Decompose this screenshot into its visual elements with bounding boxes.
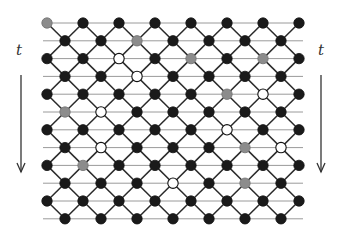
black-node	[168, 142, 178, 152]
black-node	[186, 160, 196, 170]
white-node	[276, 142, 286, 152]
black-node	[78, 125, 88, 135]
black-node	[114, 125, 124, 135]
black-node	[276, 36, 286, 46]
time-label-right: t	[318, 41, 324, 59]
black-node	[168, 36, 178, 46]
horizontal-time-lines	[43, 23, 303, 219]
gray-node	[240, 142, 250, 152]
black-node	[276, 214, 286, 224]
black-node	[114, 160, 124, 170]
black-node	[204, 36, 214, 46]
time-arrows	[17, 75, 325, 172]
black-node	[132, 142, 142, 152]
black-node	[96, 214, 106, 224]
gray-node	[240, 178, 250, 188]
black-node	[150, 18, 160, 28]
black-node	[96, 36, 106, 46]
black-node	[240, 36, 250, 46]
gray-node	[78, 160, 88, 170]
black-node	[258, 196, 268, 206]
black-node	[114, 18, 124, 28]
black-node	[42, 53, 52, 63]
black-node	[114, 89, 124, 99]
black-node	[222, 160, 232, 170]
black-node	[150, 89, 160, 99]
black-node	[42, 125, 52, 135]
black-node	[204, 178, 214, 188]
black-node	[168, 107, 178, 117]
black-node	[78, 89, 88, 99]
lattice-nodes	[42, 18, 304, 224]
black-node	[204, 214, 214, 224]
black-node	[78, 53, 88, 63]
black-node	[294, 89, 304, 99]
black-node	[78, 196, 88, 206]
black-node	[222, 196, 232, 206]
black-node	[60, 71, 70, 81]
gray-node	[222, 89, 232, 99]
black-node	[42, 196, 52, 206]
black-node	[258, 125, 268, 135]
black-node	[60, 214, 70, 224]
black-node	[186, 196, 196, 206]
black-node	[150, 125, 160, 135]
black-node	[168, 214, 178, 224]
gray-node	[42, 18, 52, 28]
black-node	[96, 71, 106, 81]
black-node	[204, 71, 214, 81]
gray-node	[258, 53, 268, 63]
black-node	[60, 178, 70, 188]
black-node	[42, 160, 52, 170]
black-node	[204, 107, 214, 117]
white-node	[168, 178, 178, 188]
black-node	[294, 18, 304, 28]
black-node	[132, 107, 142, 117]
time-label-left: t	[16, 41, 22, 59]
white-node	[96, 142, 106, 152]
white-node	[96, 107, 106, 117]
black-node	[114, 196, 124, 206]
black-node	[276, 107, 286, 117]
white-node	[132, 71, 142, 81]
black-node	[240, 107, 250, 117]
black-node	[294, 160, 304, 170]
black-node	[276, 178, 286, 188]
black-node	[186, 89, 196, 99]
black-node	[240, 71, 250, 81]
black-node	[150, 53, 160, 63]
black-node	[294, 53, 304, 63]
black-node	[258, 18, 268, 28]
black-node	[60, 36, 70, 46]
gray-node	[186, 53, 196, 63]
black-node	[132, 214, 142, 224]
black-node	[132, 178, 142, 188]
black-node	[276, 71, 286, 81]
black-node	[240, 214, 250, 224]
black-node	[294, 125, 304, 135]
lattice-edges	[47, 23, 299, 219]
black-node	[222, 18, 232, 28]
black-node	[96, 178, 106, 188]
black-node	[150, 160, 160, 170]
black-node	[186, 125, 196, 135]
black-node	[204, 142, 214, 152]
black-node	[150, 196, 160, 206]
black-node	[168, 71, 178, 81]
black-node	[42, 89, 52, 99]
black-node	[258, 160, 268, 170]
white-node	[222, 125, 232, 135]
black-node	[294, 196, 304, 206]
black-node	[186, 18, 196, 28]
white-node	[114, 53, 124, 63]
gray-node	[132, 36, 142, 46]
white-node	[258, 89, 268, 99]
black-node	[78, 18, 88, 28]
lattice-diagram	[0, 0, 345, 235]
gray-node	[60, 107, 70, 117]
black-node	[60, 142, 70, 152]
black-node	[222, 53, 232, 63]
